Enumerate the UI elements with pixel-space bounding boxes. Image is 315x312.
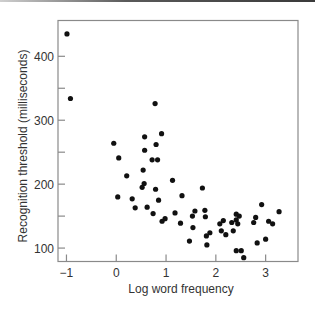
data-point xyxy=(142,148,147,153)
data-point xyxy=(140,185,145,190)
data-point xyxy=(116,155,121,160)
data-point xyxy=(219,228,224,233)
y-axis-label: Recognition threshold (milliseconds) xyxy=(16,50,30,243)
x-tick-label: 0 xyxy=(113,266,120,280)
data-point xyxy=(156,198,161,203)
data-point xyxy=(192,208,197,213)
data-point xyxy=(170,178,175,183)
scatter-chart: −10123 100200300400 Log word frequency R… xyxy=(0,0,315,312)
data-points xyxy=(64,31,281,260)
data-point xyxy=(142,134,147,139)
data-point xyxy=(178,221,183,226)
data-point xyxy=(204,242,209,247)
data-point xyxy=(145,205,150,210)
data-point xyxy=(259,202,264,207)
data-point xyxy=(234,248,239,253)
plot-area-frame xyxy=(58,21,298,262)
data-point xyxy=(133,205,138,210)
data-point xyxy=(270,221,275,226)
data-point xyxy=(231,228,236,233)
data-point xyxy=(235,221,240,226)
data-point xyxy=(203,214,208,219)
data-point xyxy=(159,131,164,136)
x-tick-label: 2 xyxy=(212,266,219,280)
data-point xyxy=(124,173,129,178)
y-tick-label: 200 xyxy=(34,178,54,192)
data-point xyxy=(68,96,73,101)
data-point xyxy=(155,157,160,162)
data-point xyxy=(204,233,209,238)
x-tick-label: −1 xyxy=(60,266,74,280)
data-point xyxy=(229,220,234,225)
data-point xyxy=(159,219,164,224)
data-point xyxy=(64,31,69,36)
data-point xyxy=(202,208,207,213)
data-point xyxy=(255,240,260,245)
x-axis: −10123 xyxy=(60,255,270,280)
data-point xyxy=(115,194,120,199)
data-point xyxy=(253,215,258,220)
data-point xyxy=(190,225,195,230)
x-tick-label: 3 xyxy=(262,266,269,280)
data-point xyxy=(150,157,155,162)
data-point xyxy=(172,210,177,215)
data-point xyxy=(152,101,157,106)
data-point xyxy=(153,142,158,147)
y-tick-label: 400 xyxy=(34,50,54,64)
y-tick-label: 100 xyxy=(34,242,54,256)
x-axis-label: Log word frequency xyxy=(128,282,233,296)
data-point xyxy=(200,185,205,190)
data-point xyxy=(130,196,135,201)
data-point xyxy=(179,193,184,198)
data-point xyxy=(187,238,192,243)
data-point xyxy=(251,220,256,225)
data-point xyxy=(276,209,281,214)
data-point xyxy=(241,255,246,260)
y-axis: 100200300400 xyxy=(34,50,65,256)
data-point xyxy=(221,218,226,223)
x-tick-label: 1 xyxy=(163,266,170,280)
data-point xyxy=(111,141,116,146)
data-point xyxy=(190,214,195,219)
data-point xyxy=(151,211,156,216)
data-point xyxy=(239,248,244,253)
data-point xyxy=(153,187,158,192)
y-tick-label: 300 xyxy=(34,114,54,128)
data-point xyxy=(263,237,268,242)
data-point xyxy=(223,232,228,237)
data-point xyxy=(141,167,146,172)
